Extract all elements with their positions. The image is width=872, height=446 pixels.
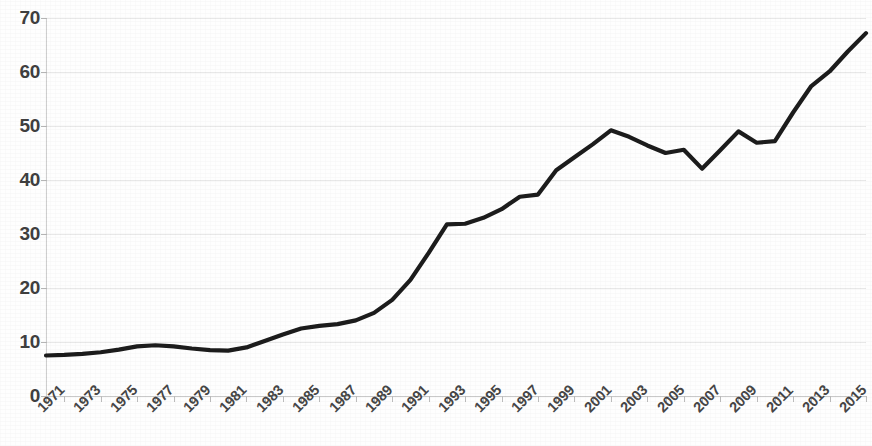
x-tick-label-1999: 1999 [544,382,578,416]
y-tick-label-70: 70 [4,7,40,29]
y-tick-mark-30 [41,234,47,235]
x-tick-label-1975: 1975 [107,382,141,416]
x-tick-label-1983: 1983 [253,382,287,416]
gridline-10 [46,342,866,343]
x-tick-label-2005: 2005 [654,382,688,416]
x-tick-mark-1972 [64,396,65,402]
y-tick-mark-20 [41,288,47,289]
y-tick-label-40: 40 [4,169,40,191]
y-axis-tick-labels: 010203040506070 [0,0,40,446]
y-tick-label-50: 50 [4,115,40,137]
gridline-20 [46,288,866,289]
x-tick-mark-2008 [720,396,721,402]
y-tick-label-10: 10 [4,331,40,353]
gridline-60 [46,72,866,73]
y-tick-label-20: 20 [4,277,40,299]
scan-noise-overlay [0,0,872,446]
x-tick-mark-2010 [757,396,758,402]
x-tick-label-1997: 1997 [508,382,542,416]
x-tick-mark-1974 [101,396,102,402]
x-tick-mark-1994 [465,396,466,402]
x-tick-label-1985: 1985 [289,382,323,416]
x-tick-label-1981: 1981 [216,382,250,416]
y-tick-mark-60 [41,72,47,73]
x-tick-mark-1976 [137,396,138,402]
x-tick-label-1993: 1993 [435,382,469,416]
x-tick-mark-1996 [502,396,503,402]
x-tick-label-2007: 2007 [690,382,724,416]
x-tick-mark-2002 [611,396,612,402]
x-tick-label-2003: 2003 [617,382,651,416]
x-tick-label-2011: 2011 [763,382,796,415]
x-tick-label-2001: 2001 [581,382,615,416]
x-tick-mark-1992 [429,396,430,402]
x-tick-mark-1980 [210,396,211,402]
x-tick-label-1979: 1979 [180,382,214,416]
x-tick-mark-1986 [319,396,320,402]
x-tick-mark-1984 [283,396,284,402]
y-axis-line [46,18,47,397]
x-tick-mark-2014 [830,396,831,402]
gridline-30 [46,234,866,235]
x-tick-mark-2016 [866,396,867,402]
x-tick-mark-1990 [392,396,393,402]
x-tick-mark-1998 [538,396,539,402]
x-tick-label-2009: 2009 [726,382,760,416]
x-tick-mark-2004 [647,396,648,402]
y-tick-label-60: 60 [4,61,40,83]
x-tick-label-1989: 1989 [362,382,396,416]
x-tick-mark-1978 [174,396,175,402]
x-tick-label-1987: 1987 [326,382,360,416]
y-tick-label-30: 30 [4,223,40,245]
x-tick-mark-1988 [356,396,357,402]
x-tick-label-1995: 1995 [471,382,505,416]
x-tick-mark-2000 [574,396,575,402]
line-chart: 010203040506070 197119731975197719791981… [0,0,872,446]
data-series-line [0,0,872,446]
gridline-70 [46,18,866,19]
x-tick-mark-2006 [684,396,685,402]
y-tick-mark-40 [41,180,47,181]
gridline-40 [46,180,866,181]
gridline-50 [46,126,866,127]
x-tick-label-1973: 1973 [70,382,104,416]
y-tick-mark-10 [41,342,47,343]
x-tick-label-1991: 1991 [398,382,432,416]
y-tick-mark-70 [41,18,47,19]
x-tick-mark-1982 [246,396,247,402]
x-tick-label-2015: 2015 [836,382,870,416]
x-tick-mark-2012 [793,396,794,402]
x-tick-label-2013: 2013 [799,382,833,416]
y-tick-mark-50 [41,126,47,127]
x-tick-label-1977: 1977 [143,382,177,416]
